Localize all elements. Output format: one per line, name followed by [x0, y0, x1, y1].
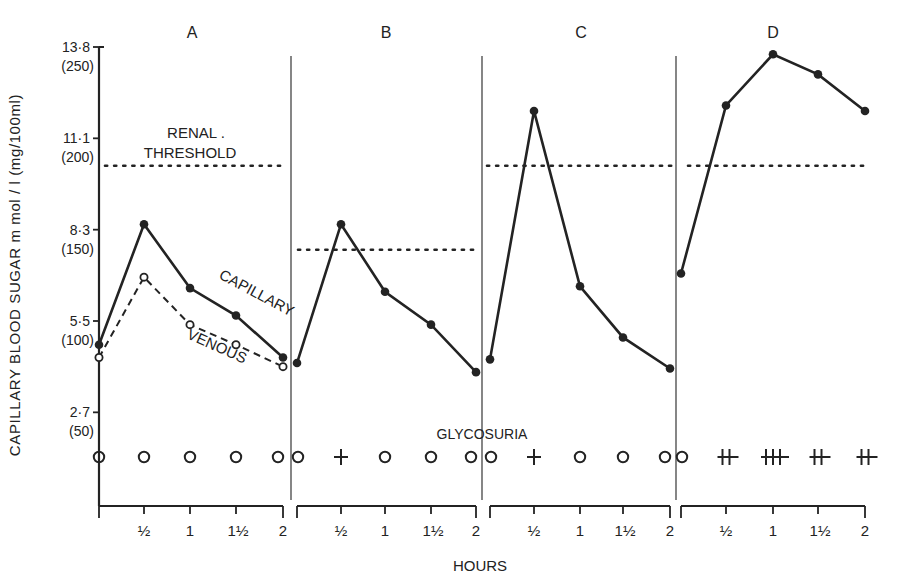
data-point-filled: [619, 333, 628, 342]
renal-threshold-label-line2: THRESHOLD: [144, 144, 237, 161]
glycosuria-negative-marker: [466, 452, 476, 462]
glycosuria-negative-marker: [575, 452, 585, 462]
glycosuria-negative-marker: [185, 452, 195, 462]
y-axis-label: CAPILLARY BLOOD SUGAR m mol / l (mg/100m…: [6, 94, 23, 456]
data-point-filled: [576, 282, 585, 291]
x-tick-label: ½: [138, 522, 151, 539]
x-tick-label: 2: [279, 522, 287, 539]
glycosuria-negative-marker: [486, 452, 496, 462]
glycosuria-negative-marker: [139, 452, 149, 462]
data-point-open: [279, 363, 286, 370]
x-tick-label: ½: [720, 522, 733, 539]
data-point-filled: [722, 101, 731, 110]
glycosuria-negative-marker: [380, 452, 390, 462]
x-tick-label: ½: [335, 522, 348, 539]
capillary-series-line: [490, 111, 670, 369]
y-tick-label-mmol: 11·1: [63, 130, 90, 146]
panel-a: A½11½2: [94, 24, 288, 539]
data-point-filled: [140, 220, 149, 229]
capillary-series-line: [681, 54, 865, 273]
glycosuria-label: GLYCOSURIA: [437, 426, 528, 442]
data-point-filled: [677, 269, 686, 278]
capillary-series-line: [297, 224, 476, 372]
y-tick-label-mmol: 13·8: [62, 39, 90, 55]
glycosuria-negative-marker: [273, 452, 283, 462]
x-tick-label: 1½: [228, 522, 249, 539]
y-tick-label-mmol: 8·3: [70, 222, 90, 238]
panel-label: C: [575, 24, 587, 41]
y-tick-label-mg: (200): [61, 149, 94, 165]
data-point-filled: [486, 355, 495, 364]
panel-c: C½11½2: [482, 24, 674, 539]
x-tick-label: 1½: [423, 522, 444, 539]
data-point-filled: [381, 287, 390, 296]
y-tick-label-mmol: 2·7: [70, 404, 90, 420]
panels: A½11½2B½11½2C½11½2D½11½2: [94, 24, 878, 539]
y-tick-label-mg: (250): [61, 58, 94, 74]
data-point-filled: [337, 220, 346, 229]
x-tick-label: 1: [186, 522, 194, 539]
data-point-open: [140, 274, 147, 281]
axes: 13·8(250)11·1(200)8·3(150)5·5(100)2·7(50…: [61, 39, 104, 506]
x-tick-label: 2: [666, 522, 674, 539]
data-point-open: [95, 354, 102, 361]
glycosuria-negative-marker: [426, 452, 436, 462]
x-tick-label: 1: [769, 522, 777, 539]
x-tick-label: 2: [472, 522, 480, 539]
x-tick-label: 2: [861, 522, 869, 539]
x-axis-label: HOURS: [453, 557, 507, 574]
data-point-filled: [293, 359, 302, 368]
renal-threshold-label-line1: RENAL .: [167, 124, 225, 141]
data-point-filled: [530, 107, 539, 116]
panel-d: D½11½2: [676, 24, 878, 539]
x-tick-label: 1½: [615, 522, 636, 539]
data-point-filled: [95, 340, 104, 349]
data-point-filled: [186, 284, 195, 293]
y-tick-label-mmol: 5·5: [70, 313, 90, 329]
data-point-filled: [666, 364, 675, 373]
glycosuria-negative-marker: [660, 452, 670, 462]
data-point-filled: [232, 311, 241, 320]
data-point-filled: [769, 50, 778, 59]
data-point-filled: [427, 320, 436, 329]
glycosuria-negative-marker: [293, 452, 303, 462]
x-tick-label: 1: [381, 522, 389, 539]
x-tick-label: 1: [576, 522, 584, 539]
glycosuria-negative-marker: [618, 452, 628, 462]
panel-b: B½11½2: [291, 24, 480, 539]
y-tick-label-mg: (100): [61, 332, 94, 348]
panel-label: D: [767, 24, 779, 41]
y-tick-label-mg: (150): [61, 241, 94, 257]
data-point-filled: [472, 368, 481, 377]
data-point-filled: [861, 107, 870, 116]
y-tick-label-mg: (50): [69, 423, 94, 439]
glycosuria-negative-marker: [231, 452, 241, 462]
data-point-filled: [279, 353, 288, 362]
x-tick-label: 1½: [810, 522, 831, 539]
venous-series-label: VENOUS: [185, 325, 250, 366]
x-tick-label: ½: [528, 522, 541, 539]
panel-label: A: [187, 24, 198, 41]
panel-label: B: [381, 24, 392, 41]
glycosuria-negative-marker: [677, 452, 687, 462]
data-point-filled: [814, 70, 823, 79]
blood-sugar-chart: 13·8(250)11·1(200)8·3(150)5·5(100)2·7(50…: [0, 0, 900, 587]
